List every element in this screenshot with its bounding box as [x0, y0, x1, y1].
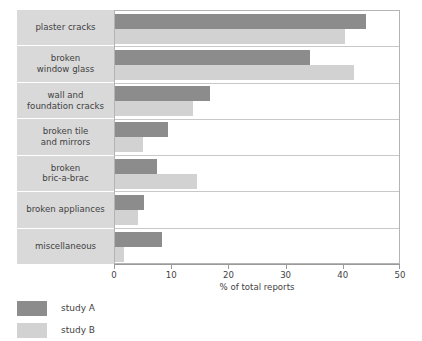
bar-row	[115, 47, 399, 83]
bar-study-b	[115, 29, 345, 44]
legend-item-study-b: study B	[17, 320, 197, 340]
bar-row	[115, 156, 399, 192]
category-label: broken window glass	[17, 46, 114, 82]
chart-legend: study A study B	[17, 298, 197, 341]
bar-row	[115, 192, 399, 228]
x-axis-tick-label: 50	[395, 270, 406, 280]
legend-item-study-a: study A	[17, 298, 197, 318]
legend-label: study B	[61, 325, 95, 335]
bar-row	[115, 229, 399, 265]
bar-study-a	[115, 159, 157, 174]
legend-swatch-icon	[17, 323, 47, 338]
bar-chart-figure: plaster cracks broken window glass wall …	[0, 0, 422, 341]
bar-row	[115, 84, 399, 120]
category-label: wall and foundation cracks	[17, 83, 114, 119]
x-axis-tick	[114, 264, 115, 269]
x-axis-tick-label: 0	[111, 270, 116, 280]
bar-row	[115, 120, 399, 156]
plot-area	[114, 10, 400, 264]
bar-study-a	[115, 232, 162, 247]
x-axis: 01020304050	[114, 264, 400, 265]
bar-study-b	[115, 174, 197, 189]
legend-label: study A	[61, 303, 95, 313]
category-label: miscellaneous	[17, 229, 114, 264]
x-axis-title: % of total reports	[114, 282, 400, 292]
category-label: broken tile and mirrors	[17, 119, 114, 155]
bar-study-a	[115, 14, 366, 29]
bar-study-b	[115, 101, 193, 116]
x-axis-tick	[343, 264, 344, 269]
bar-study-a	[115, 50, 310, 65]
x-axis-tick	[228, 264, 229, 269]
category-label: plaster cracks	[17, 10, 114, 46]
category-label-panel: plaster cracks broken window glass wall …	[17, 10, 114, 264]
x-axis-tick	[399, 264, 400, 269]
bar-study-b	[115, 65, 354, 80]
bar-study-a	[115, 122, 168, 137]
bar-row	[115, 11, 399, 47]
category-label: broken appliances	[17, 192, 114, 228]
bar-study-b	[115, 210, 138, 225]
x-axis-tick	[286, 264, 287, 269]
x-axis-tick-label: 30	[280, 270, 291, 280]
bar-study-b	[115, 137, 143, 152]
bar-study-a	[115, 86, 210, 101]
legend-swatch-icon	[17, 301, 47, 316]
x-axis-tick-label: 20	[223, 270, 234, 280]
x-axis-tick	[171, 264, 172, 269]
category-label: broken bric-a-brac	[17, 156, 114, 192]
x-axis-tick-label: 40	[337, 270, 348, 280]
bar-study-a	[115, 195, 144, 210]
bar-study-b	[115, 247, 124, 262]
x-axis-tick-label: 10	[166, 270, 177, 280]
